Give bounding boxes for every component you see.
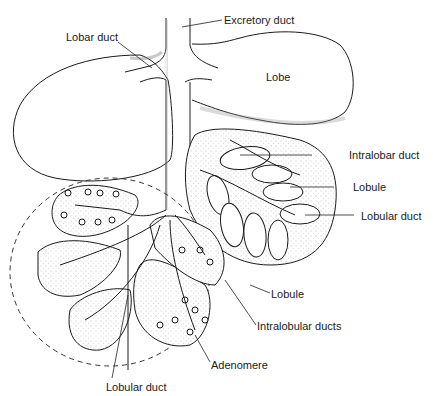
label-lobular-duct-bottom: Lobular duct: [106, 381, 167, 393]
label-lobule-lower: Lobule: [271, 288, 304, 300]
left-lobe: [13, 52, 172, 181]
label-lobar-duct: Lobar duct: [66, 31, 118, 43]
label-lobe: Lobe: [266, 71, 290, 83]
label-lobule-upper: Lobule: [353, 181, 386, 193]
label-intralobular-ducts: Intralobular ducts: [257, 320, 341, 332]
gland-duct-diagram: [0, 0, 433, 396]
label-adenomere: Adenomere: [211, 359, 268, 371]
label-intralobar-duct: Intralobar duct: [349, 149, 419, 161]
label-excretory-duct: Excretory duct: [224, 14, 294, 26]
label-lobular-duct-right: Lobular duct: [361, 210, 422, 222]
